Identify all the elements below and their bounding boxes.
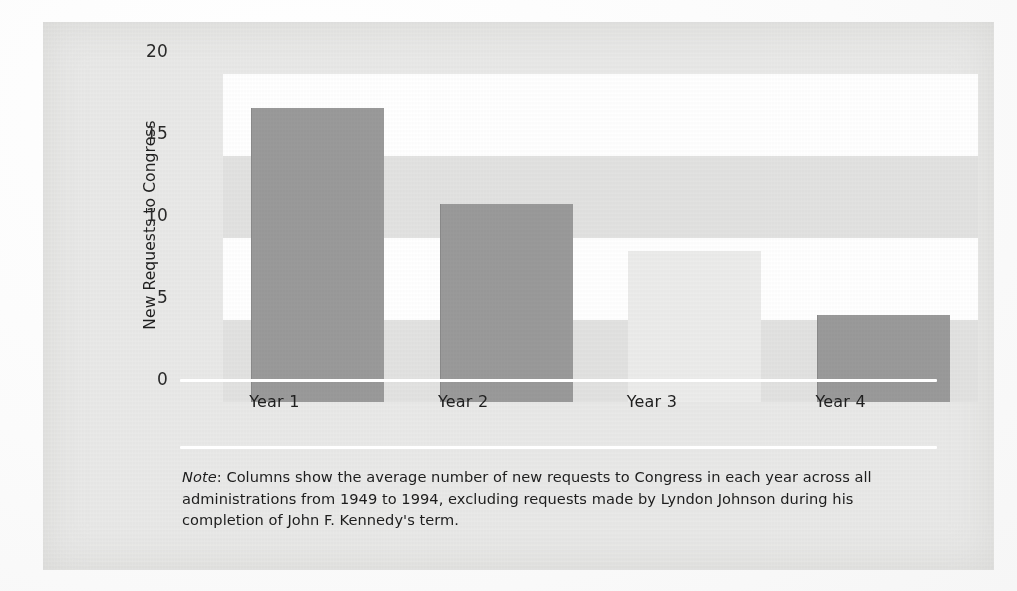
note-body: : Columns show the average number of new…	[182, 468, 872, 528]
bar-year-1	[251, 108, 384, 402]
scanned-page: New Requests to Congress 05101520 Year 1…	[0, 0, 1017, 591]
note-lead-label: Note	[182, 468, 217, 485]
y-tick-label-5: 5	[122, 289, 168, 306]
note-separator	[180, 446, 937, 449]
x-tick-label-year-1: Year 1	[194, 392, 354, 411]
plot-area	[223, 74, 978, 402]
bar-year-4	[817, 315, 950, 402]
y-tick-label-15: 15	[122, 125, 168, 142]
y-tick-label-0: 0	[122, 371, 168, 388]
x-tick-label-year-3: Year 3	[572, 392, 732, 411]
x-axis-line	[180, 379, 937, 382]
bar-year-2	[440, 204, 573, 402]
y-axis: New Requests to Congress 05101520	[118, 0, 168, 591]
bar-series	[223, 74, 978, 402]
figure-note: Note: Columns show the average number of…	[182, 466, 892, 531]
x-tick-label-year-2: Year 2	[383, 392, 543, 411]
y-tick-label-10: 10	[122, 207, 168, 224]
x-tick-label-year-4: Year 4	[761, 392, 921, 411]
y-tick-label-20: 20	[122, 43, 168, 60]
